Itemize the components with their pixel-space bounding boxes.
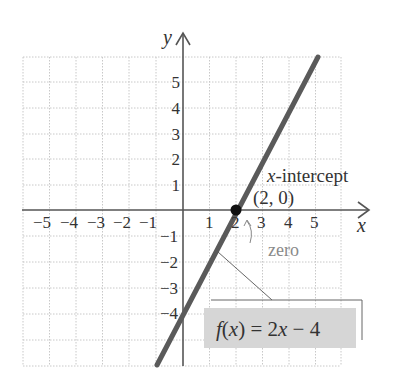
y-tick-4: 4	[150, 100, 180, 117]
equation-mid: ) = 2	[238, 317, 278, 341]
equation-tail: − 4	[287, 317, 320, 341]
x-tick-2: 2	[231, 214, 240, 231]
zero-label: zero	[268, 241, 299, 259]
y-tick-3: 3	[150, 126, 180, 143]
y-tick-neg2: −2	[148, 254, 178, 271]
x-tick-neg5: −5	[33, 214, 51, 231]
x-intercept-label-text: -intercept	[275, 165, 348, 186]
x-tick-5: 5	[310, 214, 319, 231]
x-tick-1: 1	[205, 214, 214, 231]
x-tick-neg1: −1	[139, 214, 157, 231]
x-tick-4: 4	[284, 214, 293, 231]
x-tick-neg2: −2	[113, 214, 131, 231]
y-tick-neg4: −4	[148, 305, 178, 322]
y-axis-label: y	[163, 27, 172, 47]
equation-label-box: f(x) = 2x − 4	[204, 308, 356, 348]
x-tick-3: 3	[257, 214, 266, 231]
graph: y x 5 4 3 2 1 −1 −2 −3 −4 −5 −4 −3 −2 −1…	[0, 0, 395, 377]
y-tick-2: 2	[150, 151, 180, 168]
equation-x2: x	[278, 317, 287, 341]
intercept-point-label: (2, 0)	[253, 188, 294, 207]
equation-x: x	[229, 317, 238, 341]
x-tick-neg3: −3	[87, 214, 105, 231]
x-intercept-label: x-intercept	[267, 166, 348, 185]
x-tick-neg4: −4	[60, 214, 78, 231]
zero-arrow-head-icon	[244, 220, 251, 226]
equation-leader-line	[218, 252, 272, 300]
y-tick-neg3: −3	[148, 280, 178, 297]
zero-arrow-line	[247, 221, 251, 243]
equation-open: (	[222, 317, 229, 341]
y-tick-5: 5	[150, 74, 180, 91]
x-axis-label: x	[357, 215, 366, 235]
equation-text: f(x) = 2x − 4	[216, 317, 320, 342]
y-tick-1: 1	[150, 177, 180, 194]
